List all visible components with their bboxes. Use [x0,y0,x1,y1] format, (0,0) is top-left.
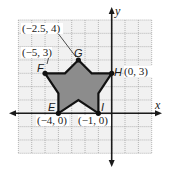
vertex-dot-h [109,71,114,76]
x-axis-label: x [154,98,161,112]
y-axis-up-arrow-icon [109,7,115,14]
vertex-label-g: G [74,47,83,59]
vertex-label-e: E [48,101,56,113]
vertex-dot-f [42,71,47,76]
vertex-dot-e [56,111,61,116]
coord-label-g: (−2.5, 4) [22,22,61,35]
coord-label-e: (−4, 0) [37,114,67,127]
vertex-dot-i [96,111,101,116]
vertex-label-i: I [101,101,104,113]
y-axis-down-arrow-icon [109,160,115,167]
coord-label-f: (−5, 3) [22,46,52,59]
coordinate-plane-diagram: x y (−2.5, 4) (−5, 3) (0, 3) (−4, 0) (−1… [0,0,171,172]
coord-label-i: (−1, 0) [78,114,108,127]
y-axis-label: y [114,4,121,18]
vertex-label-h: H [114,66,122,78]
vertex-dot-g [76,57,81,62]
coord-label-h: (0, 3) [124,65,148,78]
x-axis-left-arrow-icon [9,110,16,116]
